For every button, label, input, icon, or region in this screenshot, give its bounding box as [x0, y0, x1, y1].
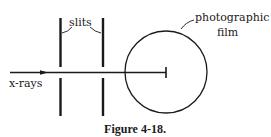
film-label-line1: photographic [195, 11, 269, 24]
diagram-canvas: slits photographic film x-rays Figure 4-… [0, 0, 271, 137]
arrowhead-icon [40, 70, 48, 74]
figure-caption: Figure 4-18. [104, 122, 166, 136]
slits-label: slits [69, 16, 92, 29]
xrays-label: x-rays [9, 77, 43, 90]
film-label-line2: film [217, 26, 239, 39]
film-leader [181, 20, 194, 29]
